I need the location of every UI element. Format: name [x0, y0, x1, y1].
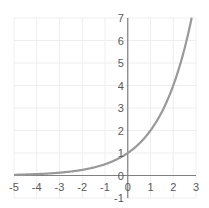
y-tick-label: 4	[118, 80, 124, 92]
y-tick-label: 0	[118, 170, 124, 182]
x-tick-label: -3	[55, 181, 65, 193]
x-tick-label: -4	[32, 181, 42, 193]
y-tick-label: 7	[118, 12, 124, 24]
y-tick-label: -1	[114, 192, 124, 204]
x-tick-label: 3	[193, 181, 199, 193]
y-tick-label: 2	[118, 125, 124, 137]
y-tick-label: 6	[118, 35, 124, 47]
curve-2-pow-x	[14, 18, 192, 175]
x-tick-label: -2	[77, 181, 87, 193]
x-tick-label: 2	[170, 181, 176, 193]
x-tick-label: 0	[125, 181, 131, 193]
y-tick-label: 5	[118, 57, 124, 69]
x-tick-label: 1	[147, 181, 153, 193]
x-tick-label: -5	[9, 181, 19, 193]
x-axis-tick-labels: -5-4-3-2-10123	[9, 181, 199, 193]
y-tick-label: 1	[118, 147, 124, 159]
y-tick-label: 3	[118, 102, 124, 114]
x-tick-label: -1	[100, 181, 110, 193]
exponential-chart: -5-4-3-2-10123 -101234567	[0, 0, 209, 208]
grid-lines	[14, 18, 196, 198]
